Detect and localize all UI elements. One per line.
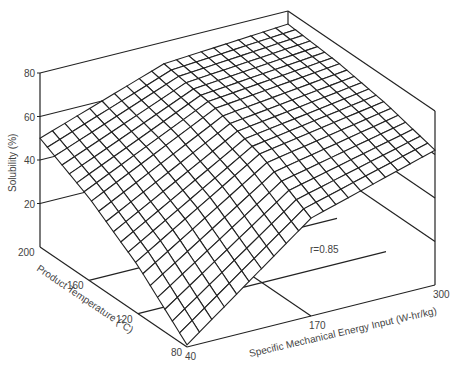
svg-text:60: 60 <box>24 112 36 123</box>
surface-plot: 204060808012016020040170300Solubility (%… <box>0 0 456 365</box>
svg-text:170: 170 <box>309 320 326 331</box>
svg-text:40: 40 <box>185 351 197 362</box>
svg-text:r=0.85: r=0.85 <box>310 244 339 255</box>
svg-text:Solubility (%): Solubility (%) <box>7 134 18 192</box>
svg-text:20: 20 <box>24 199 36 210</box>
svg-text:80: 80 <box>24 68 36 79</box>
solubility-surface <box>40 24 435 345</box>
svg-text:80: 80 <box>171 347 183 358</box>
svg-text:Product Temperature (°C): Product Temperature (°C) <box>35 263 136 336</box>
svg-text:Specific Mechanical Energy I: Specific Mechanical Energy Input (W-hr/k… <box>248 305 438 359</box>
svg-text:40: 40 <box>24 155 36 166</box>
svg-text:300: 300 <box>433 289 450 300</box>
svg-text:200: 200 <box>18 247 35 258</box>
